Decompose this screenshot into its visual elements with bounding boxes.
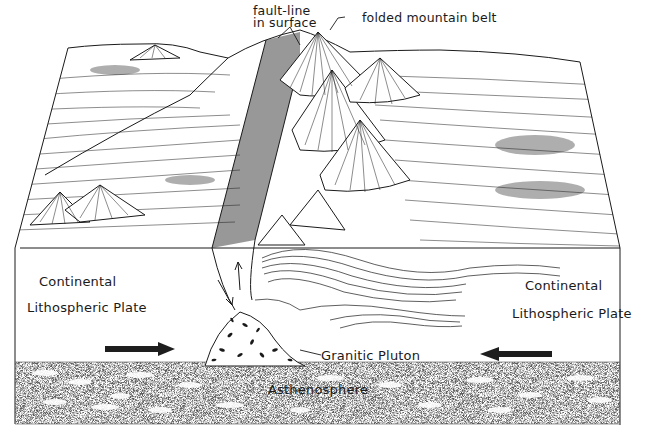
- block-diagram: fault-line in surface folded mountain be…: [0, 0, 646, 433]
- granitic-pluton: [205, 312, 305, 366]
- fault-line-label-line2: in surface: [253, 17, 317, 29]
- right-pointing-arrow-icon: [105, 342, 175, 356]
- right-plate-label-line1: Continental: [525, 278, 602, 293]
- granitic-pluton-label: Granitic Pluton: [321, 348, 420, 363]
- asthenosphere-label: Asthenosphere: [268, 382, 368, 397]
- diagram-artwork: [0, 0, 646, 433]
- right-plate-label-line2: Lithospheric Plate: [512, 306, 632, 321]
- fault-zone: [212, 32, 300, 248]
- left-pointing-arrow-icon: [480, 347, 552, 361]
- folded-mountain-belt-label: folded mountain belt: [362, 12, 497, 24]
- left-plate-label-line2: Lithospheric Plate: [27, 300, 147, 315]
- fault-line-label: fault-line in surface: [253, 5, 317, 29]
- left-plate-label-line1: Continental: [39, 274, 116, 289]
